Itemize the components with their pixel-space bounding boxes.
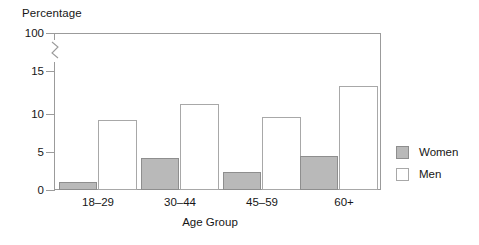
bar-men-45-59 [262, 117, 301, 190]
bar-women-60plus [300, 156, 338, 190]
bar-men-18-29 [98, 120, 137, 190]
bars-layer [54, 33, 381, 190]
y-tick-0 [46, 190, 55, 191]
chart-legend: Women Men [396, 141, 458, 185]
legend-swatch-women-icon [396, 146, 409, 159]
x-tick-label-45-59: 45–59 [246, 196, 278, 208]
x-axis-title: Age Group [0, 216, 420, 228]
x-tick-label-18-29: 18–29 [82, 196, 114, 208]
bar-chart: Percentage 100 15 10 5 0 [0, 0, 479, 245]
cropped-title-remnant [0, 0, 479, 4]
legend-swatch-men-icon [396, 168, 409, 181]
bar-men-30-44 [180, 104, 219, 190]
x-tick-label-30-44: 30–44 [164, 196, 196, 208]
bar-men-60plus [339, 86, 378, 190]
bar-women-18-29 [59, 182, 97, 190]
y-tick-label-10: 10 [2, 108, 44, 120]
legend-label-women: Women [419, 146, 458, 158]
y-tick-label-5: 5 [2, 146, 44, 158]
y-axis-title: Percentage [22, 7, 82, 19]
y-tick-label-100: 100 [2, 27, 44, 39]
x-tick-label-60plus: 60+ [334, 196, 354, 208]
legend-label-men: Men [419, 168, 441, 180]
bar-women-45-59 [223, 172, 261, 190]
y-tick-label-15: 15 [2, 65, 44, 77]
legend-item-women: Women [396, 141, 458, 163]
bar-women-30-44 [141, 158, 179, 190]
legend-item-men: Men [396, 163, 458, 185]
y-tick-label-0: 0 [2, 184, 44, 196]
